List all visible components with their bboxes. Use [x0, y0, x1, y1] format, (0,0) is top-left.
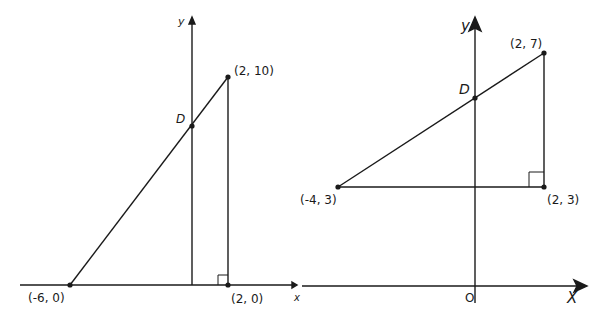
left-point-d: [189, 123, 194, 128]
right-point-a-label: (-4, 3): [300, 193, 337, 207]
left-x-axis-label: x: [293, 292, 300, 303]
left-point-d-label: D: [176, 112, 185, 126]
left-x-axis-arrow-icon: [292, 282, 297, 288]
left-y-axis-arrow-icon: [189, 17, 195, 24]
left-point-b: [225, 74, 230, 79]
right-right-angle-marker: [529, 172, 544, 187]
right-origin-label: O: [465, 291, 474, 305]
right-point-a: [335, 184, 340, 189]
left-point-b-label: (2, 10): [234, 64, 274, 78]
left-y-axis-label: y: [177, 15, 185, 28]
right-point-b-label: (2, 7): [510, 37, 542, 51]
left-figure: [20, 17, 297, 288]
left-point-c: [225, 282, 230, 287]
left-point-a-label: (-6, 0): [28, 291, 65, 305]
right-y-axis-label: y: [460, 17, 471, 35]
right-x-axis-label: X: [566, 289, 578, 307]
left-point-a: [67, 282, 72, 287]
right-point-c: [541, 184, 546, 189]
right-hypotenuse: [338, 53, 544, 187]
right-point-b: [541, 50, 546, 55]
diagram-canvas: y x (2, 10) D (-6, 0) (2, 0) y X O (2, 7…: [0, 0, 591, 326]
left-hypotenuse: [70, 77, 228, 285]
right-point-d: [472, 95, 477, 100]
right-point-d-label: D: [459, 81, 470, 97]
right-figure: [302, 17, 587, 303]
right-point-c-label: (2, 3): [547, 193, 579, 207]
left-point-c-label: (2, 0): [231, 292, 263, 306]
